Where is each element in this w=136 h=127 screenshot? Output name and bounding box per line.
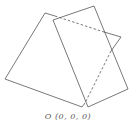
back-rect-edge-bottom xyxy=(5,79,82,107)
back-rect-edge-left xyxy=(5,13,45,79)
back-rect-edge-top-hidden xyxy=(55,16,104,32)
back-rect-edge-right-bottom xyxy=(82,103,85,107)
rectangles-diagram xyxy=(0,0,136,127)
back-rect-edge-right-hidden xyxy=(85,51,111,103)
back-rectangle xyxy=(5,13,121,107)
origin-label: O (0, 0, 0) xyxy=(0,112,136,121)
back-rect-edge-top-visible xyxy=(45,13,55,16)
back-rect-edge-right-visible xyxy=(111,37,121,51)
